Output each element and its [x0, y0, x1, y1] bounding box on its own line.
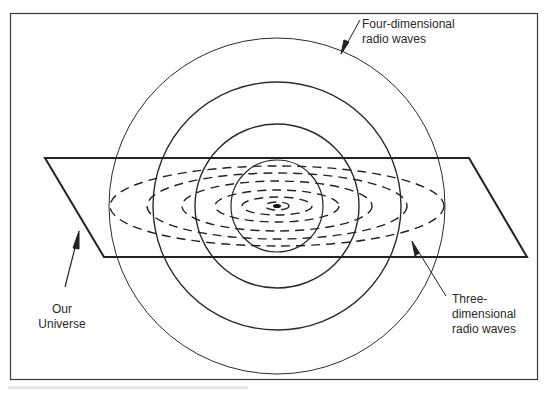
arrow-three-dimensional [412, 241, 446, 296]
label-three-dimensional-line1: Three- [452, 292, 516, 307]
label-four-dimensional-line1: Four-dimensional [362, 17, 455, 32]
source-point [273, 204, 281, 208]
label-our-universe: Our Universe [34, 302, 90, 332]
figure-caption-illegible [8, 386, 248, 389]
label-three-dimensional-line2: dimensional [452, 307, 516, 322]
label-our-universe-line2: Universe [34, 317, 90, 332]
label-three-dimensional: Three- dimensional radio waves [452, 292, 516, 337]
arrow-four-dimensional [341, 20, 360, 54]
label-four-dimensional: Four-dimensional radio waves [362, 17, 455, 47]
label-our-universe-line1: Our [34, 302, 90, 317]
label-four-dimensional-line2: radio waves [362, 32, 455, 47]
label-three-dimensional-line3: radio waves [452, 322, 516, 337]
arrow-our-universe [65, 231, 79, 287]
